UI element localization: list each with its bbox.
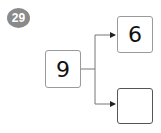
source-box: 9 xyxy=(45,50,81,88)
target-box-top: 6 xyxy=(117,16,153,53)
answer-box[interactable] xyxy=(117,88,153,124)
